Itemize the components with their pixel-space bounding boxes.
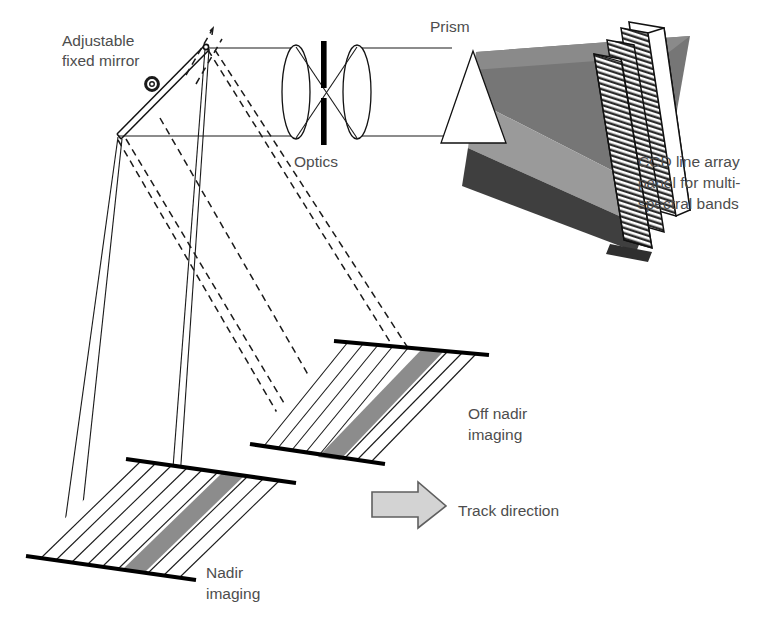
optics-assembly[interactable] — [282, 41, 371, 145]
off-nadir-label-line2: imaging — [468, 426, 522, 443]
diagram-canvas: Adjustable fixed mirror Optics Prism CCD… — [0, 0, 762, 627]
mirror-label-line2: fixed mirror — [62, 52, 140, 69]
track-direction-label: Track direction — [458, 502, 559, 519]
mirror-pivot-icon — [146, 78, 159, 91]
nadir-label-line1: Nadir — [206, 564, 243, 581]
nadir-imaging-patch[interactable] — [26, 459, 296, 580]
ccd-label-line1: CCD line array — [638, 153, 740, 170]
mirror-label-line1: Adjustable — [62, 32, 134, 49]
optical-diagram: Adjustable fixed mirror Optics Prism CCD… — [0, 0, 762, 627]
slit-bar-upper — [321, 41, 327, 88]
slit-bar-lower — [321, 98, 327, 145]
ccd-label-line2: panel for multi- — [638, 174, 741, 191]
off-nadir-imaging-patch[interactable] — [250, 341, 489, 464]
lens-1 — [282, 45, 310, 139]
nadir-label-line2: imaging — [206, 585, 260, 602]
mirror-apex-node — [203, 44, 208, 49]
off-nadir-label-line1: Off nadir — [468, 405, 527, 422]
ccd-label-line3: spectral bands — [638, 195, 739, 212]
track-direction-arrow — [372, 482, 446, 528]
lens-2 — [343, 45, 371, 139]
optics-label: Optics — [294, 153, 338, 170]
prism-label: Prism — [430, 18, 470, 35]
